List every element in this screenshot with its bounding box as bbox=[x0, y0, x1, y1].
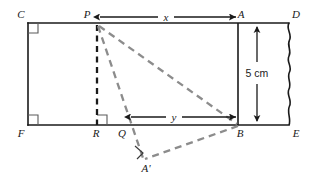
dimension-label-y: y bbox=[171, 111, 177, 123]
right-angle-marker-R bbox=[97, 115, 107, 125]
right-angle-markers-rect bbox=[28, 23, 107, 125]
geometry-diagram: x y 5 cm C D F E P A R Q bbox=[0, 0, 314, 181]
dimension-x: x bbox=[100, 11, 236, 23]
dashed-line-B-to-Aprime bbox=[145, 126, 238, 159]
vertex-label-A-prime: A' bbox=[140, 162, 151, 174]
right-angle-marker-F bbox=[28, 115, 38, 125]
vertex-label-Q: Q bbox=[118, 127, 126, 139]
vertex-label-A: A bbox=[237, 8, 245, 20]
dimension-height: 5 cm bbox=[246, 26, 269, 122]
dimension-label-height: 5 cm bbox=[246, 67, 269, 79]
right-angle-marker-C bbox=[28, 23, 38, 33]
dimension-label-x: x bbox=[163, 11, 169, 23]
vertex-label-D: D bbox=[291, 8, 300, 20]
vertex-label-F: F bbox=[17, 127, 25, 139]
dashed-line-PB bbox=[99, 26, 237, 124]
wavy-torn-edge bbox=[288, 23, 290, 125]
vertex-label-P: P bbox=[83, 8, 91, 20]
vertex-label-R: R bbox=[92, 127, 100, 139]
vertex-label-E: E bbox=[292, 127, 300, 139]
vertex-label-B: B bbox=[237, 127, 244, 139]
vertex-label-C: C bbox=[17, 8, 25, 20]
geometry-canvas: x y 5 cm C D F E P A R Q bbox=[0, 0, 314, 181]
